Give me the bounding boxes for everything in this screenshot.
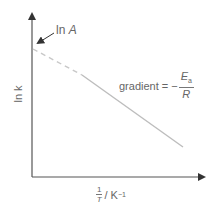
gradient-label: gradient = − Ea R [119, 70, 194, 101]
x-fraction: 1 T [96, 185, 102, 204]
x-numerator: 1 [96, 185, 102, 195]
ea-var: E [181, 70, 188, 82]
intercept-var: A [69, 23, 77, 37]
intercept-prefix: ln [56, 23, 69, 37]
gradient-denominator: R [179, 88, 194, 101]
intercept-label: ln A [56, 23, 77, 37]
gradient-numerator: Ea [179, 70, 194, 88]
x-unit: / K [104, 189, 117, 201]
x-unit-exp: −1 [118, 191, 126, 198]
ea-sub: a [188, 77, 192, 84]
x-denominator: T [96, 195, 102, 204]
gradient-fraction: Ea R [179, 70, 194, 101]
intercept-arrow [38, 33, 54, 43]
extrapolated-line [33, 49, 82, 75]
gradient-text: gradient = − [119, 80, 178, 92]
arrhenius-plot [0, 0, 208, 214]
x-axis-label: 1 T / K−1 [96, 185, 126, 204]
r-var: R [182, 88, 190, 100]
y-axis-label: ln k [12, 81, 24, 107]
